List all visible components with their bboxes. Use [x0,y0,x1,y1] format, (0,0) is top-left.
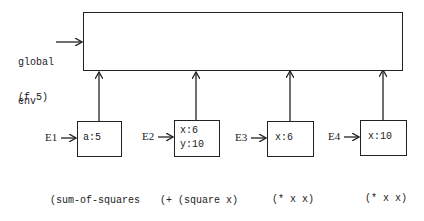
e3-body-line: (* x x) [272,193,314,206]
e1-body: (sum-of-squares (+ a 1) (* a 2)) [50,168,140,221]
global-env-label: global env [18,30,54,121]
e2-binding-x: x:6 [180,124,198,138]
e2-label: E2 [142,130,154,143]
e1-label: E1 [45,131,57,144]
e3-binding-x: x:6 [275,131,293,145]
e4-frame: x:10 [360,120,407,156]
e2-body-line: (+ (square x) [160,194,244,207]
e3-label: E3 [235,131,247,144]
e2-binding-y: y:10 [180,138,204,152]
call-expression: (f 5) [18,91,48,104]
e4-binding-x: x:10 [368,130,392,144]
global-label-line1: global [18,56,54,69]
e4-label: E4 [328,130,340,143]
e4-body: (* x x) [365,166,407,218]
e3-body: (* x x) [272,167,314,219]
e1-body-line: (sum-of-squares [50,194,140,207]
e2-frame: x:6 y:10 [174,120,220,157]
e3-frame: x:6 [267,121,314,157]
e1-binding-a: a:5 [83,131,101,145]
global-env-frame [83,12,403,71]
e4-body-line: (* x x) [365,192,407,205]
e1-frame: a:5 [77,121,122,157]
e2-body: (+ (square x) (square y)) [160,168,244,221]
